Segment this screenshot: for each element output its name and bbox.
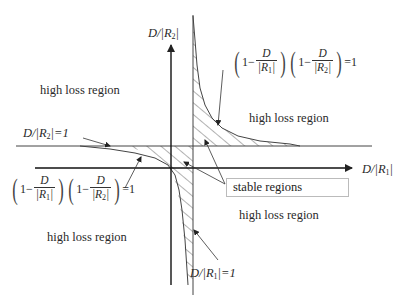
stable-regions-label: stable regions [226, 178, 349, 197]
hyperbola-equation-lower: (1−D|R1|)(1−D|R2|)=1 [10, 174, 135, 204]
pointer-r1-line [194, 230, 218, 260]
y-axis-label: D/|R2| [148, 26, 179, 41]
region-label-bottom-left: high loss region [47, 230, 127, 245]
pointer-stable-upper [205, 140, 225, 184]
region-label-top-left: high loss region [40, 83, 120, 98]
x-axis-label: D/|R1| [362, 162, 393, 177]
pointer-upper-equation [218, 70, 223, 125]
region-label-bottom-right: high loss region [239, 208, 319, 223]
region-label-top-right: high loss region [249, 111, 329, 126]
stability-diagram [0, 0, 403, 301]
r2-equals-one-label: D/|R2|=1 [23, 126, 69, 141]
stable-region-upper [193, 16, 300, 146]
r1-equals-one-label: D/|R1|=1 [190, 266, 236, 281]
pointer-r2-line [83, 138, 110, 146]
hyperbola-equation-upper: (1−D|R1|)(1−D|R2|)=1 [232, 47, 357, 77]
